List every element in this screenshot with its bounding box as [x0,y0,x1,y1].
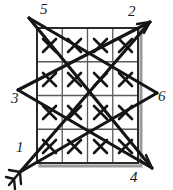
vertex-label-4: 4 [130,170,138,185]
vertex-label-6: 6 [158,89,166,104]
figure-root: 1 2 3 4 5 6 [0,0,173,190]
arrowhead-1-icon [6,170,21,189]
vertex-label-1: 1 [16,140,24,155]
vertex-label-5: 5 [40,2,48,17]
figure-canvas [0,0,173,190]
vertex-label-2: 2 [128,4,136,19]
vertex-label-3: 3 [11,91,19,106]
